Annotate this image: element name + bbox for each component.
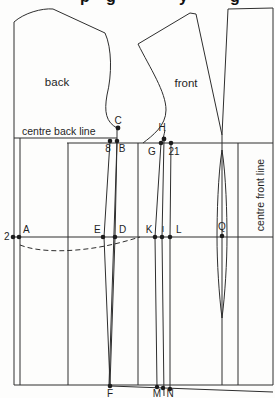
dot-G [159,141,164,146]
front-piece-label: front [174,77,198,89]
measure-8-label: 8 [105,143,111,154]
dot-mid-MN [161,386,165,390]
point-label-Q: Q [218,221,226,232]
dot-C [116,126,121,131]
dot-H [162,137,167,142]
dot-Q [220,234,225,239]
front-side-piece-edge [222,9,228,135]
back-dart-lower-leg [110,237,115,385]
front-dart-leg [170,143,171,237]
centre-front-line-label: centre front line [254,159,266,232]
dot-2-outer [11,235,16,240]
point-label-B: B [119,143,126,154]
point-label-H: H [158,122,165,133]
dashed-waist-curve [20,237,140,251]
point-label-F: F [107,388,113,398]
front-side-piece-top-edge [228,8,273,9]
dot-K [153,235,158,240]
front-neck-seam-line [196,14,222,135]
measure-21-label: 21 [168,146,180,157]
front-dart-lower-leg [155,237,157,387]
measure-2-label: 2 [4,231,10,242]
point-label-A: A [23,224,30,235]
centre-back-line-label: centre back line [22,125,96,137]
pattern-diagram: back front centre back line centre front… [0,0,275,398]
point-label-C: C [114,115,121,126]
point-label-G: G [148,146,156,157]
back-piece-label: back [45,76,70,88]
pattern-diagram-page: p g y g [0,0,275,398]
dot-I [160,235,165,240]
dot-L [168,235,173,240]
point-label-I: I [162,224,165,234]
point-label-M: M [153,388,161,398]
point-label-D: D [119,224,126,235]
point-label-E: E [94,224,101,235]
back-dart-centre-line [109,141,117,385]
front-dart-lower-centre [162,237,164,396]
dot-E [101,235,106,240]
point-label-N: N [166,388,173,398]
front-dart-centre-upper [162,139,164,237]
slanted-hem-adjust-line [110,386,273,392]
back-dart-lower-leg [104,237,110,385]
dot-D [113,235,118,240]
dot-A [17,235,22,240]
back-neck-shoulder-outline [14,9,105,33]
dot-21 [169,141,174,146]
front-shoulder-outline [138,13,196,44]
point-label-K: K [146,224,153,235]
point-label-L: L [176,224,182,235]
back-dart-leg [104,141,110,237]
front-dart-leg [155,143,161,237]
